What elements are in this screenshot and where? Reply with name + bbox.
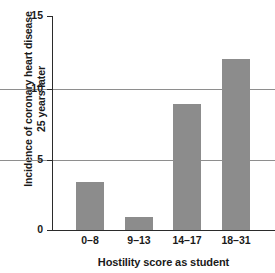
x-axis-title: Hostility score as student (52, 256, 275, 269)
x-axis-line (52, 230, 275, 231)
y-tick-label-15: 15 (3, 10, 43, 21)
bar-9-13 (125, 217, 153, 230)
y-tick-label-10: 10 (3, 83, 43, 94)
y-axis-title-line-2: 25 years later (35, 66, 48, 132)
bars-layer (52, 16, 275, 230)
y-tick-label-0: 0 (3, 224, 43, 235)
bar-14-17 (173, 104, 201, 230)
x-tick-label-3: 18–31 (204, 234, 268, 246)
y-axis-title: Incidence of coronary heart disease 25 y… (20, 0, 50, 202)
bar-chart-figure: Incidence of coronary heart disease 25 y… (0, 0, 275, 273)
x-axis-tick-labels: 0–8 9–13 14–17 18–31 (52, 234, 275, 248)
bar-0-8 (76, 182, 104, 231)
y-tick-mark-0 (47, 230, 53, 231)
bar-18-31 (222, 59, 250, 230)
y-tick-label-5: 5 (3, 154, 43, 165)
